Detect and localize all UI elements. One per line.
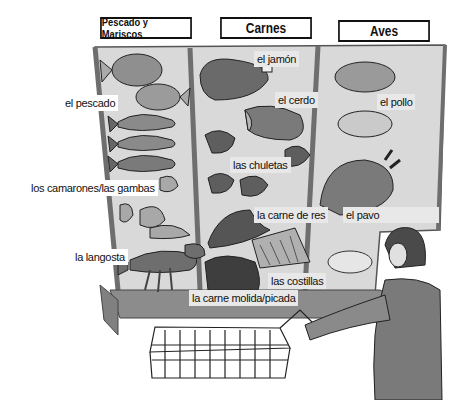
- label-chops: las chuletas: [230, 157, 291, 173]
- label-ribs: las costillas: [268, 273, 326, 289]
- section-header-poultry: Aves: [338, 20, 430, 42]
- label-lobster: la langosta: [72, 249, 128, 265]
- label-chicken: el pollo: [377, 94, 415, 110]
- label-beef: la carne de res: [254, 207, 328, 223]
- label-turkey: el pavo: [343, 207, 439, 223]
- label-ground-meat: la carne molida/picada: [189, 290, 298, 306]
- shopping-cart: [150, 310, 312, 378]
- display-case-drawing: [0, 0, 462, 400]
- supermarket-illustration: Pescado y Mariscos Carnes Aves el pescad…: [0, 0, 462, 400]
- section-header-seafood: Pescado y Mariscos: [100, 17, 192, 39]
- ground-meat-group: [205, 256, 259, 290]
- label-shrimp: los camarones/las gambas: [28, 180, 158, 196]
- chicken-small: [328, 251, 372, 273]
- label-fish: el pescado: [62, 95, 118, 111]
- label-ham: el jamón: [254, 51, 299, 67]
- section-header-meats: Carnes: [220, 17, 312, 39]
- label-pork: el cerdo: [275, 92, 318, 108]
